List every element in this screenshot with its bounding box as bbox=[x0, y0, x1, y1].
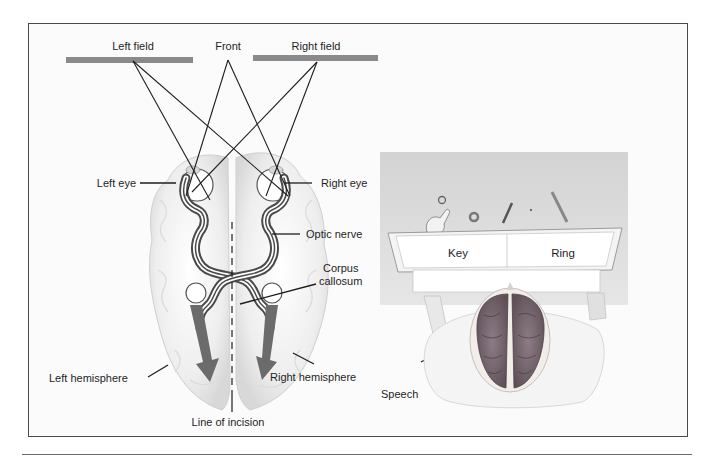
line-of-incision-label: Line of incision bbox=[192, 416, 265, 429]
corpus-callosum-line1: Corpus bbox=[319, 262, 362, 275]
speech-label: Speech bbox=[381, 388, 418, 401]
left-hemisphere-label: Left hemisphere bbox=[49, 372, 128, 385]
optic-nerve-label: Optic nerve bbox=[306, 228, 362, 241]
right-arm bbox=[587, 293, 606, 320]
right-field-bar bbox=[253, 55, 378, 61]
corpus-callosum-label: Corpus callosum bbox=[319, 262, 362, 288]
left-field-label: Left field bbox=[112, 40, 154, 53]
left-eye-label: Left eye bbox=[97, 177, 136, 190]
left-field-bar bbox=[66, 57, 193, 63]
screen-word-left: Key bbox=[448, 247, 468, 259]
screen-word-right: Ring bbox=[551, 247, 575, 259]
corpus-callosum-line2: callosum bbox=[319, 275, 362, 288]
right-hemisphere-label: Right hemisphere bbox=[270, 371, 356, 384]
right-field-label: Right field bbox=[292, 40, 341, 53]
experiment-scene bbox=[380, 152, 628, 408]
front-label: Front bbox=[215, 40, 241, 53]
right-eye-label: Right eye bbox=[321, 177, 367, 190]
visual-field-bars bbox=[66, 55, 378, 63]
